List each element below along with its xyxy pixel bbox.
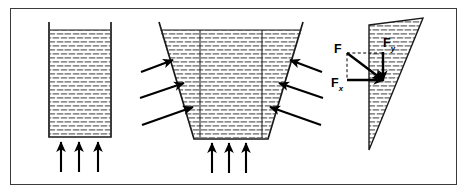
force-x-symbol: F <box>331 76 339 90</box>
bottom-pressure-arrows-vertical <box>61 142 98 172</box>
wall-pressure-arrow <box>141 60 173 72</box>
force-resultant-symbol: F <box>334 42 342 56</box>
force-x-subscript: x <box>339 84 343 93</box>
force-y-symbol: F <box>383 36 391 50</box>
force-resultant-label: F <box>334 43 342 56</box>
wall-pressure-arrow <box>142 107 193 125</box>
force-y-label: Fy <box>383 37 395 52</box>
panel-vertical-container <box>49 22 111 172</box>
wall-pressure-arrow <box>290 60 322 72</box>
panel-trapezoid-container <box>140 22 323 173</box>
force-y-subscript: y <box>391 44 395 53</box>
force-x-label: Fx <box>331 77 343 92</box>
wall-pressure-arrow <box>270 107 321 125</box>
bottom-pressure-arrows-trapezoid <box>212 143 246 173</box>
hydrostatic-pressure-figure: F Fx Fy <box>0 0 467 193</box>
wall-pressure-arrow <box>279 83 323 98</box>
figure-drawing <box>0 0 467 193</box>
fluid-body-vertical <box>50 30 110 136</box>
wall-pressure-arrow <box>140 83 184 98</box>
